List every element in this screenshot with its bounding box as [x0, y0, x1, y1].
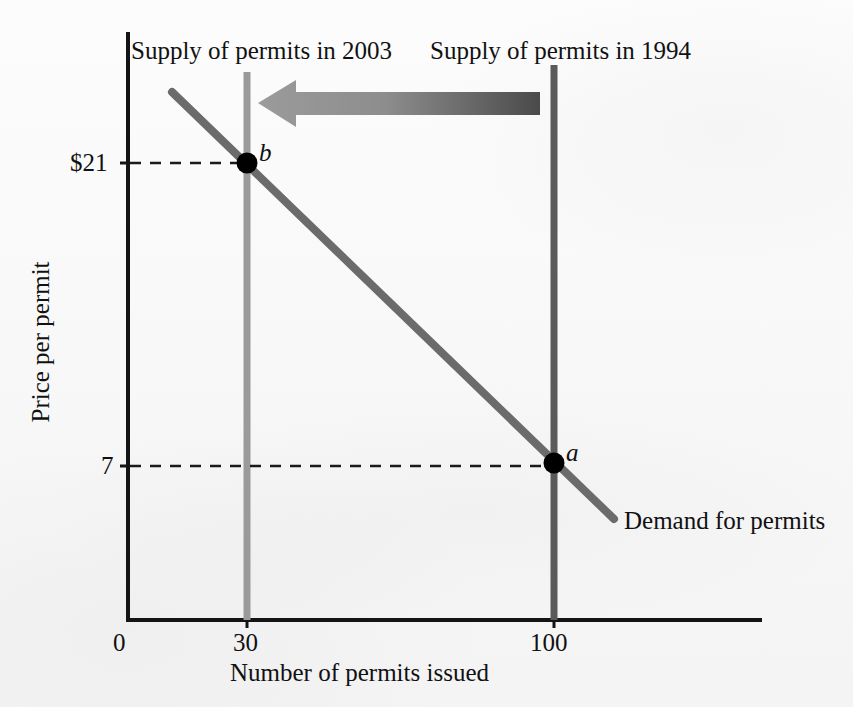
- x-tick-label-30: 30: [233, 630, 258, 655]
- supply-shift-arrow-icon: [258, 80, 540, 127]
- y-axis-title: Price per permit: [28, 263, 53, 423]
- point-a-label: a: [566, 440, 579, 465]
- y-tick-label-21: $21: [70, 150, 108, 175]
- demand-label: Demand for permits: [624, 508, 825, 533]
- point-b-label: b: [259, 140, 272, 165]
- chart-plot-area: [0, 0, 853, 707]
- x-tick-label-0: 0: [113, 630, 126, 655]
- chart-figure: Supply of permits in 2003 Supply of perm…: [0, 0, 853, 707]
- supply-2003-label: Supply of permits in 2003: [131, 38, 392, 63]
- point-b-marker[interactable]: [237, 153, 258, 174]
- x-tick-label-100: 100: [530, 630, 568, 655]
- y-tick-label-7: 7: [101, 453, 114, 478]
- x-axis-title: Number of permits issued: [230, 660, 489, 685]
- supply-1994-label: Supply of permits in 1994: [430, 38, 691, 63]
- point-a-marker[interactable]: [544, 453, 565, 474]
